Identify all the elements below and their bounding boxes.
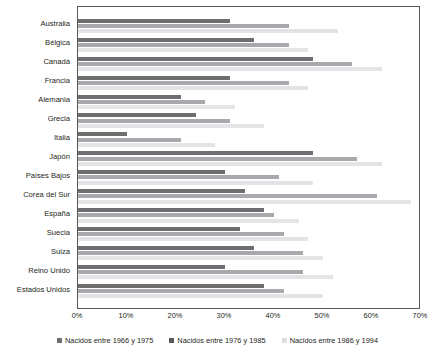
bar-rows	[78, 7, 419, 308]
legend-swatch-icon	[282, 338, 287, 343]
y-axis-label: Suecia	[0, 224, 73, 243]
bar-series-1	[78, 119, 230, 123]
bar-series-2	[78, 294, 323, 298]
bar-series-2	[78, 275, 333, 279]
bar-series-2	[78, 181, 313, 185]
x-axis-tick-label: 20%	[168, 311, 183, 320]
bar-series-0	[78, 76, 230, 80]
bar-series-1	[78, 175, 279, 179]
bar-series-0	[78, 38, 254, 42]
bar-series-2	[78, 29, 338, 33]
bar-series-2	[78, 48, 308, 52]
legend-item: Nacidos entre 1986 y 1994	[282, 336, 378, 345]
legend-swatch-icon	[169, 338, 174, 343]
y-axis-label: Francia	[0, 72, 73, 91]
bar-series-1	[78, 232, 284, 236]
chart-legend: Nacidos entre 1966 y 1975Nacidos entre 1…	[0, 336, 435, 345]
x-axis-tick-label: 0%	[72, 311, 83, 320]
bar-group	[78, 35, 419, 54]
bar-series-2	[78, 200, 411, 204]
y-axis-labels: AustraliaBélgicaCanadáFranciaAlemaniaGre…	[0, 6, 73, 309]
bar-group	[78, 225, 419, 244]
bar-group	[78, 206, 419, 225]
bar-series-0	[78, 132, 127, 136]
bar-series-1	[78, 157, 357, 161]
plot-area	[77, 6, 420, 309]
bar-series-2	[78, 219, 299, 223]
bar-series-2	[78, 143, 215, 147]
bar-series-0	[78, 57, 313, 61]
bar-chart: AustraliaBélgicaCanadáFranciaAlemaniaGre…	[0, 0, 435, 355]
legend-label: Nacidos entre 1976 y 1985	[177, 336, 265, 345]
bar-group	[78, 130, 419, 149]
bar-series-2	[78, 256, 323, 260]
legend-label: Nacidos entre 1986 y 1994	[290, 336, 378, 345]
y-axis-label: Canadá	[0, 53, 73, 72]
bar-series-0	[78, 19, 230, 23]
bar-series-2	[78, 67, 382, 71]
y-axis-label: Bélgica	[0, 34, 73, 53]
y-axis-label: Países Bajos	[0, 167, 73, 186]
bar-group	[78, 263, 419, 282]
x-axis-tick-label: 10%	[119, 311, 134, 320]
x-axis-tick-label: 70%	[413, 311, 428, 320]
bar-group	[78, 111, 419, 130]
bar-series-0	[78, 151, 313, 155]
bar-series-1	[78, 100, 205, 104]
bar-series-0	[78, 265, 225, 269]
bar-series-1	[78, 43, 289, 47]
bar-series-0	[78, 170, 225, 174]
bar-group	[78, 149, 419, 168]
y-axis-label: Australia	[0, 15, 73, 34]
y-axis-label: Japón	[0, 148, 73, 167]
bar-series-0	[78, 284, 264, 288]
y-axis-label: Grecia	[0, 110, 73, 129]
bar-series-1	[78, 81, 289, 85]
x-axis-tick-label: 40%	[266, 311, 281, 320]
legend-swatch-icon	[57, 338, 62, 343]
bar-series-2	[78, 124, 264, 128]
y-axis-label: Alemania	[0, 91, 73, 110]
bar-series-2	[78, 105, 235, 109]
bar-series-0	[78, 113, 196, 117]
x-axis-tick-label: 60%	[364, 311, 379, 320]
legend-item: Nacidos entre 1966 y 1975	[57, 336, 153, 345]
y-axis-label: Italia	[0, 129, 73, 148]
x-axis-tick-label: 30%	[217, 311, 232, 320]
bar-series-0	[78, 227, 240, 231]
bar-series-1	[78, 138, 181, 142]
bar-group	[78, 187, 419, 206]
bar-series-1	[78, 24, 289, 28]
bar-series-2	[78, 86, 308, 90]
bar-group	[78, 168, 419, 187]
y-axis-label: Reino Unido	[0, 262, 73, 281]
bar-series-2	[78, 237, 308, 241]
bar-series-1	[78, 251, 303, 255]
bar-series-0	[78, 208, 264, 212]
bar-series-0	[78, 95, 181, 99]
bar-series-2	[78, 162, 382, 166]
bar-series-0	[78, 189, 245, 193]
y-axis-label: Corea del Sur	[0, 186, 73, 205]
bar-group	[78, 92, 419, 111]
bar-group	[78, 73, 419, 92]
bar-group	[78, 282, 419, 301]
bar-group	[78, 54, 419, 73]
y-axis-label: Suiza	[0, 243, 73, 262]
bar-group	[78, 244, 419, 263]
bar-series-1	[78, 270, 303, 274]
bar-group	[78, 16, 419, 35]
x-axis: 0%10%20%30%40%50%60%70%	[77, 309, 420, 323]
y-axis-label: España	[0, 205, 73, 224]
bar-series-1	[78, 213, 274, 217]
bar-series-0	[78, 246, 254, 250]
legend-item: Nacidos entre 1976 y 1985	[169, 336, 265, 345]
legend-label: Nacidos entre 1966 y 1975	[65, 336, 153, 345]
bar-series-1	[78, 194, 377, 198]
bar-series-1	[78, 289, 284, 293]
bar-series-1	[78, 62, 352, 66]
x-axis-tick-label: 50%	[315, 311, 330, 320]
y-axis-label: Estados Unidos	[0, 281, 73, 300]
